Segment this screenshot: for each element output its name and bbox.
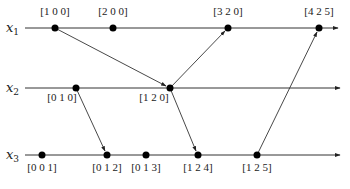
message-arrow-010-to-012: [76, 88, 105, 151]
event-dot: [225, 25, 232, 32]
vector-clock-label: [4 2 5]: [304, 5, 333, 17]
event-dot: [195, 152, 202, 159]
event-dot: [39, 152, 46, 159]
vector-clock-label: [0 1 0]: [47, 91, 76, 103]
event-dot: [52, 25, 59, 32]
process-label-x3: x3: [6, 147, 19, 164]
message-arrow-120-to-320: [170, 31, 225, 88]
space-time-diagram: x1 x2 x3 [1 0 0] [2 0 0] [3 2 0] [4 2 5]…: [0, 0, 350, 189]
event-dot: [110, 25, 117, 32]
vector-clock-label: [0 1 2]: [92, 161, 121, 173]
vector-clock-label: [1 2 5]: [242, 161, 271, 173]
event-120: [1 2 0]: [139, 85, 173, 104]
vector-clock-label: [1 2 4]: [183, 161, 212, 173]
vector-clock-label: [2 0 0]: [98, 5, 127, 17]
event-dot: [104, 152, 111, 159]
event-010: [0 1 0]: [47, 85, 79, 104]
message-arrow-100-to-120: [55, 28, 166, 86]
event-dot: [316, 25, 323, 32]
vector-clock-label: [1 2 0]: [139, 91, 168, 103]
message-arrow-120-to-124: [170, 88, 196, 151]
event-dot: [143, 152, 150, 159]
messages: [55, 28, 317, 155]
vector-clock-label: [0 0 1]: [27, 161, 56, 173]
event-dot: [254, 152, 261, 159]
message-arrow-125-to-425: [257, 32, 317, 155]
vector-clock-label: [1 0 0]: [40, 5, 69, 17]
process-label-x1: x1: [6, 20, 19, 37]
process-label-x2: x2: [6, 80, 19, 97]
vector-clock-label: [0 1 3]: [131, 161, 160, 173]
vector-clock-label: [3 2 0]: [213, 5, 242, 17]
